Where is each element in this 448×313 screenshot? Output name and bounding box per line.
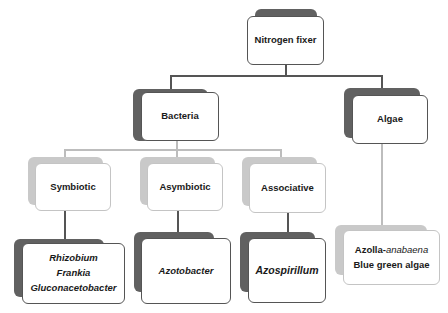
example-frankia: Frankia (57, 266, 91, 281)
connector-asymbiotic-down (177, 210, 179, 233)
example-azospirillum: Azospirillum (255, 262, 318, 278)
example-gluconacetobacter: Gluconacetobacter (30, 281, 116, 296)
node-label: Symbiotic (50, 180, 95, 195)
node-box: Azotobacter (141, 238, 231, 304)
connector-level1-horizontal (170, 75, 382, 77)
node-box: Azolla-anabaena Blue green algae (343, 230, 440, 285)
node-box: Symbiotic (35, 163, 111, 211)
node-box: Rhizobium Frankia Gluconacetobacter (22, 243, 125, 304)
connector-to-algae (381, 75, 383, 89)
connector-root-down (285, 64, 287, 75)
node-label: Associative (261, 181, 314, 196)
connector-associative-down (287, 212, 289, 233)
node-label-line2: Blue green algae (353, 258, 429, 273)
node-box: Associative (249, 163, 326, 213)
node-box: Algae (352, 95, 428, 144)
connector-symbiotic-down (64, 210, 66, 241)
node-label: Asymbiotic (159, 180, 210, 195)
node-box: Asymbiotic (147, 163, 223, 211)
connector-algae-down (381, 143, 383, 226)
node-label-line1: Azolla-anabaena (355, 243, 428, 258)
node-label: Nitrogen fixer (255, 33, 317, 48)
node-label: Algae (377, 112, 403, 127)
node-label: Bacteria (161, 109, 199, 124)
connector-level2-horizontal (64, 149, 281, 151)
node-box: Azospirillum (248, 238, 326, 303)
node-box: Bacteria (141, 92, 219, 141)
example-azotobacter: Azotobacter (159, 264, 214, 279)
example-rhizobium: Rhizobium (49, 251, 98, 266)
node-box: Nitrogen fixer (247, 16, 324, 65)
